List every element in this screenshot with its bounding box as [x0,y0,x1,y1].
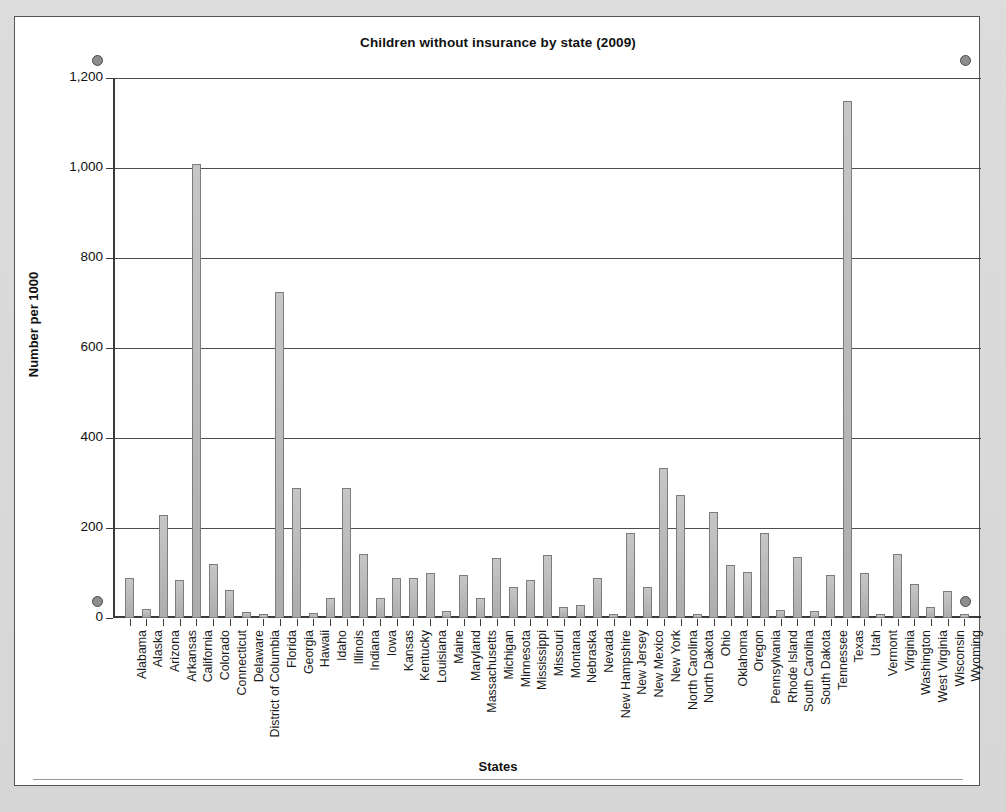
bar-illinois[interactable] [342,488,351,618]
bar-maryland[interactable] [459,575,468,618]
x-tick-north-carolina [681,619,682,626]
x-tick-idaho [330,619,331,626]
bar-new-jersey[interactable] [626,533,635,618]
bar-minnesota[interactable] [509,587,518,619]
bar-oregon[interactable] [743,572,752,618]
bar-california[interactable] [192,164,201,618]
x-axis-label-michigan: Michigan [502,630,516,680]
bar-maine[interactable] [442,611,451,618]
bar-district-of-columbia[interactable] [259,614,268,619]
bar-missouri[interactable] [543,555,552,618]
bar-delaware[interactable] [242,612,251,618]
document-rule [33,779,963,780]
bar-iowa[interactable] [376,598,385,618]
selection-handle-bottom-right[interactable] [960,596,971,607]
bar-kentucky[interactable] [409,578,418,619]
bar-tennessee[interactable] [826,575,835,618]
x-tick-louisiana [430,619,431,626]
bar-oklahoma[interactable] [726,565,735,618]
bar-washington[interactable] [910,584,919,618]
bar-mississippi[interactable] [526,580,535,618]
bar-colorado[interactable] [209,564,218,618]
x-axis-label-mississippi: Mississippi [535,630,549,690]
bar-new-york[interactable] [659,468,668,618]
bar-virginia[interactable] [893,554,902,618]
x-tick-montana [564,619,565,626]
x-tick-new-jersey [630,619,631,626]
bar-massachusetts[interactable] [476,598,485,618]
x-axis-label-wyoming: Wyoming [969,630,983,682]
x-tick-district-of-columbia [263,619,264,626]
x-axis-label-missouri: Missouri [552,630,566,676]
x-axis-label-ohio: Ohio [719,630,733,656]
bar-north-carolina[interactable] [676,495,685,618]
bar-georgia[interactable] [292,488,301,619]
bar-texas[interactable] [843,101,852,618]
x-axis-label-kentucky: Kentucky [418,630,432,681]
bar-wisconsin[interactable] [943,591,952,618]
x-axis-label-district-of-columbia: District of Columbia [268,630,282,737]
bar-michigan[interactable] [492,558,501,618]
y-tick-1,000 [106,168,113,169]
y-tick-label-200: 200 [21,519,103,534]
x-tick-illinois [347,619,348,626]
plot-area[interactable]: AlabamaAlaskaArizonaArkansasCaliforniaCo… [113,78,981,618]
bar-north-dakota[interactable] [693,614,702,619]
bar-west-virginia[interactable] [926,607,935,618]
x-axis-label-new-mexico: New Mexico [652,630,666,697]
x-axis-label-rhode-island: Rhode Island [786,630,800,703]
x-axis-label-iowa: Iowa [385,630,399,656]
bar-arkansas[interactable] [175,580,184,618]
y-tick-label-1,200: 1,200 [21,69,103,84]
bar-south-dakota[interactable] [810,611,819,618]
x-axis-label-pennsylvania: Pennsylvania [769,630,783,704]
x-tick-north-dakota [697,619,698,626]
x-tick-kansas [397,619,398,626]
y-tick-label-400: 400 [21,429,103,444]
x-tick-ohio [714,619,715,626]
selection-handle-top-left[interactable] [92,55,103,66]
x-tick-hawaii [313,619,314,626]
bar-montana[interactable] [559,607,568,618]
bar-hawaii[interactable] [309,613,318,618]
x-tick-new-mexico [647,619,648,626]
y-tick-400 [106,438,113,439]
bar-pennsylvania[interactable] [760,533,769,619]
x-axis-label-louisiana: Louisiana [435,630,449,683]
selection-handle-top-right[interactable] [960,55,971,66]
x-axis-label-tennessee: Tennessee [836,630,850,690]
bar-connecticut[interactable] [225,590,234,618]
bar-rhode-island[interactable] [776,610,785,618]
bar-new-hampshire[interactable] [609,614,618,619]
x-axis-label-maryland: Maryland [469,630,483,681]
bar-arizona[interactable] [159,515,168,618]
x-tick-south-carolina [797,619,798,626]
x-axis-label-new-york: New York [669,630,683,682]
bar-alaska[interactable] [142,609,151,618]
bar-kansas[interactable] [392,578,401,618]
bar-nebraska[interactable] [576,605,585,619]
x-axis-label-florida: Florida [285,630,299,668]
x-tick-alabama [130,619,131,626]
bar-utah[interactable] [860,573,869,618]
x-tick-texas [847,619,848,626]
bar-alabama[interactable] [125,578,134,618]
bar-south-carolina[interactable] [793,557,802,618]
bar-vermont[interactable] [876,614,885,618]
x-tick-connecticut [230,619,231,626]
bar-idaho[interactable] [326,598,335,618]
bar-indiana[interactable] [359,554,368,618]
selection-handle-bottom-left[interactable] [92,596,103,607]
bar-louisiana[interactable] [426,573,435,618]
bar-florida[interactable] [275,292,284,618]
x-tick-utah [864,619,865,626]
x-tick-colorado [213,619,214,626]
bar-ohio[interactable] [709,512,718,618]
bar-nevada[interactable] [593,578,602,618]
bar-new-mexico[interactable] [643,587,652,619]
x-tick-minnesota [514,619,515,626]
bar-wyoming[interactable] [960,614,969,618]
embedded-chart-object[interactable]: Children without insurance by state (200… [14,16,980,786]
x-axis-label-hawaii: Hawaii [318,630,332,667]
y-tick-label-1,000: 1,000 [21,159,103,174]
